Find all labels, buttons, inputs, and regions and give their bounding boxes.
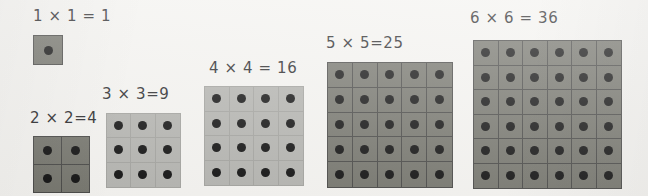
array-cell [523,164,548,189]
array-cell [572,66,597,91]
array-cell [499,115,524,140]
array-cell [523,139,548,164]
counter-dot-icon [530,146,539,155]
array-cell [474,139,499,164]
array-cell [548,139,573,164]
array-cell [597,164,622,189]
counter-dot-icon [604,171,613,180]
array-cell [572,164,597,189]
array-group-six-by-six: 6 × 6 = 36 [0,0,648,196]
counter-dot-icon [506,97,515,106]
counter-dot-icon [506,122,515,131]
array-cell [572,90,597,115]
counter-dot-icon [530,48,539,57]
counter-dot-icon [481,171,490,180]
array-cell [572,41,597,66]
counter-dot-icon [604,48,613,57]
array-cell [572,115,597,140]
counter-dot-icon [506,48,515,57]
array-cell [474,164,499,189]
counter-dot-icon [530,122,539,131]
array-cell [548,66,573,91]
counter-dot-icon [530,171,539,180]
array-cell [523,115,548,140]
counter-dot-icon [506,171,515,180]
counter-dot-icon [555,97,564,106]
array-cell [523,41,548,66]
array-cell [548,90,573,115]
counter-dot-icon [579,48,588,57]
counter-dot-icon [555,122,564,131]
array-cell [523,66,548,91]
square-array-six-by-six [473,40,622,189]
array-cell [548,41,573,66]
array-cell [548,164,573,189]
array-cell [597,41,622,66]
equation-label-six-by-six: 6 × 6 = 36 [470,11,558,26]
counter-dot-icon [506,146,515,155]
array-cell [499,139,524,164]
array-cell [499,164,524,189]
worksheet-canvas: 1 × 1 = 12 × 2=43 × 3=94 × 4 = 165 × 5=2… [0,0,648,196]
array-cell [499,90,524,115]
array-cell [499,66,524,91]
counter-dot-icon [604,122,613,131]
counter-dot-icon [481,122,490,131]
counter-dot-icon [481,73,490,82]
array-cell [597,90,622,115]
counter-dot-icon [530,97,539,106]
array-cell [597,139,622,164]
counter-dot-icon [579,122,588,131]
array-cell [572,139,597,164]
counter-dot-icon [579,73,588,82]
counter-dot-icon [481,97,490,106]
array-cell [597,115,622,140]
counter-dot-icon [530,73,539,82]
counter-dot-icon [604,73,613,82]
array-cell [474,41,499,66]
counter-dot-icon [579,146,588,155]
counter-dot-icon [506,73,515,82]
counter-dot-icon [579,97,588,106]
array-cell [474,115,499,140]
counter-dot-icon [555,146,564,155]
array-cell [474,90,499,115]
array-cell [597,66,622,91]
counter-dot-icon [555,171,564,180]
array-cell [474,66,499,91]
counter-dot-icon [555,73,564,82]
array-cell [523,90,548,115]
counter-dot-icon [579,171,588,180]
counter-dot-icon [555,48,564,57]
counter-dot-icon [604,146,613,155]
counter-dot-icon [481,48,490,57]
array-cell [548,115,573,140]
counter-dot-icon [481,146,490,155]
array-cell [499,41,524,66]
counter-dot-icon [604,97,613,106]
